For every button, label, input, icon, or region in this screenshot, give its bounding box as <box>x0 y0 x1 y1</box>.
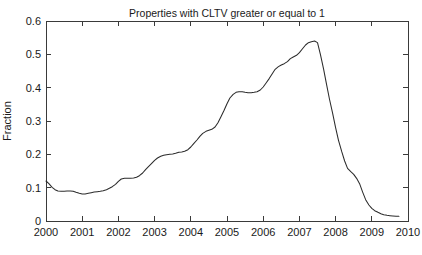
y-tick-label: 0.6 <box>26 15 41 27</box>
x-tick-label: 2006 <box>251 226 275 238</box>
chart-title-group: Properties with CLTV greater or equal to… <box>129 7 325 19</box>
x-tick-label: 2000 <box>34 226 58 238</box>
y-tick-label: 0.5 <box>26 48 41 60</box>
x-axis-ticks: 2000200120022003200420052006200720082009… <box>34 21 420 238</box>
chart-figure: Properties with CLTV greater or equal to… <box>0 0 422 255</box>
x-tick-label: 2007 <box>287 226 311 238</box>
y-axis-title: Fraction <box>1 101 13 141</box>
x-tick-label: 2004 <box>179 226 203 238</box>
chart-title: Properties with CLTV greater or equal to… <box>129 7 325 19</box>
data-series-group <box>46 41 399 216</box>
y-tick-label: 0.4 <box>26 82 41 94</box>
line-chart: Properties with CLTV greater or equal to… <box>0 0 422 255</box>
x-tick-label: 2005 <box>215 226 239 238</box>
x-tick-label: 2001 <box>70 226 94 238</box>
x-tick-label: 2008 <box>323 226 347 238</box>
y-axis-title-group: Fraction <box>1 101 13 141</box>
y-tick-label: 0.3 <box>26 115 41 127</box>
x-tick-label: 2010 <box>396 226 420 238</box>
y-tick-label: 0.2 <box>26 148 41 160</box>
y-tick-label: 0.1 <box>26 182 41 194</box>
x-tick-label: 2003 <box>142 226 166 238</box>
series-line-0 <box>46 41 399 216</box>
x-tick-label: 2002 <box>106 226 130 238</box>
y-tick-label: 0 <box>35 215 41 227</box>
x-tick-label: 2009 <box>360 226 384 238</box>
y-axis-ticks: 00.10.20.30.40.50.6 <box>26 15 408 227</box>
